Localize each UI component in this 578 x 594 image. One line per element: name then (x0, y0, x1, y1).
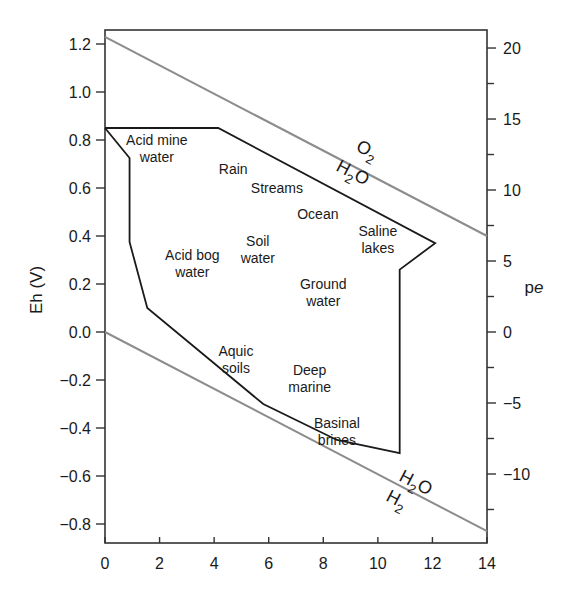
y-tick-label: −0.8 (59, 516, 91, 533)
line-label: H2 (381, 486, 410, 518)
x-tick-label: 14 (478, 555, 496, 572)
y-tick-label: 0.2 (69, 276, 91, 293)
y-right-tick-label: 20 (503, 40, 521, 57)
y-axis-left-ticks: 1.21.00.80.60.40.20.0−0.2−0.4−0.6−0.8 (59, 36, 105, 533)
x-tick-label: 4 (210, 555, 219, 572)
y-right-tick-label: −10 (503, 466, 530, 483)
natural-waters-envelope (105, 128, 435, 453)
y-tick-label: 0.4 (69, 228, 91, 245)
y-right-tick-label: 10 (503, 182, 521, 199)
y-tick-label: 1.0 (69, 84, 91, 101)
y-tick-label: 1.2 (69, 36, 91, 53)
region-label: Soilwater (240, 233, 276, 266)
y-tick-label: −0.6 (59, 468, 91, 485)
x-tick-label: 6 (264, 555, 273, 572)
region-label: Acid bogwater (165, 247, 219, 280)
y-tick-label: −0.2 (59, 372, 91, 389)
x-tick-label: 2 (155, 555, 164, 572)
region-label: Deepmarine (288, 362, 331, 395)
eh-ph-diagram: 02468101214 1.21.00.80.60.40.20.0−0.2−0.… (0, 0, 578, 594)
stability-lines (105, 37, 487, 531)
y-right-tick-label: 5 (503, 253, 512, 270)
plot-border (105, 30, 487, 543)
y-tick-label: 0.6 (69, 180, 91, 197)
y-tick-label: 0.8 (69, 132, 91, 149)
x-tick-label: 0 (101, 555, 110, 572)
y-tick-label: −0.4 (59, 420, 91, 437)
region-label: Salinelakes (358, 223, 397, 256)
y-tick-label: 0.0 (69, 324, 91, 341)
y-axis-label: Eh (V) (27, 266, 46, 314)
y-right-tick-label: 15 (503, 111, 521, 128)
region-label: Rain (219, 161, 248, 177)
region-label: Streams (251, 180, 303, 196)
x-tick-label: 12 (424, 555, 442, 572)
region-label: Ocean (297, 206, 338, 222)
region-label: Basinalbrines (314, 415, 360, 448)
line-labels: O2H2OH2OH2 (331, 136, 436, 518)
line-label: O2 (351, 136, 381, 168)
y-right-tick-label: −5 (503, 395, 521, 412)
region-label: Groundwater (300, 276, 347, 309)
y-right-tick-label: 0 (503, 324, 512, 341)
y-axis-right-label: pe (525, 278, 544, 297)
envelope-outline (105, 128, 435, 453)
x-tick-label: 8 (319, 555, 328, 572)
plot-frame (105, 30, 487, 543)
region-label: Aquicsoils (218, 343, 253, 376)
region-label: Acid minewater (126, 132, 188, 165)
x-tick-label: 10 (369, 555, 387, 572)
y-axis-right-ticks: 20151050−5−10 (487, 40, 530, 509)
